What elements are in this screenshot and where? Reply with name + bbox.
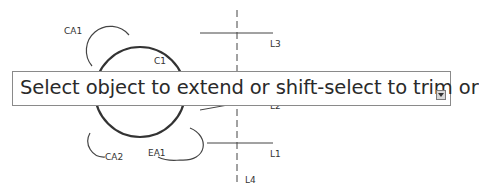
label-l3: L3 xyxy=(270,39,281,49)
prompt-text: Select object to extend or shift-select … xyxy=(20,76,479,99)
label-ea1: EA1 xyxy=(148,148,166,158)
label-l1: L1 xyxy=(270,149,281,159)
label-c1: C1 xyxy=(154,56,166,66)
arc-ca2[interactable] xyxy=(88,133,105,157)
label-ca1: CA1 xyxy=(64,26,82,36)
expand-down-icon[interactable] xyxy=(436,90,446,100)
label-ca2: CA2 xyxy=(105,152,123,162)
command-prompt-tooltip: Select object to extend or shift-select … xyxy=(12,71,451,106)
label-l4: L4 xyxy=(245,175,256,185)
